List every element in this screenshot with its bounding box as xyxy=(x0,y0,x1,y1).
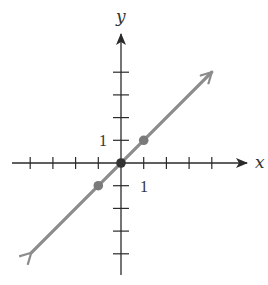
data-point xyxy=(116,158,126,168)
data-point xyxy=(94,181,104,191)
data-point xyxy=(139,136,149,146)
x-unit-label: 1 xyxy=(140,178,148,195)
y-axis-label: y xyxy=(115,6,126,26)
coordinate-plane: y x 1 1 xyxy=(0,0,268,285)
y-unit-label: 1 xyxy=(99,132,107,149)
x-axis-label: x xyxy=(255,152,265,172)
